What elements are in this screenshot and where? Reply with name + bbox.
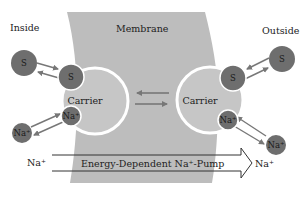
substrate-bound-left-label: S [68, 72, 74, 82]
sodium-inside: Na⁺ [12, 123, 32, 143]
substrate-bound-left: S [58, 64, 84, 90]
arrow-na-carrier-to-out [234, 126, 264, 144]
sodium-outside-label: Na⁺ [268, 140, 285, 150]
sodium-inside-label: Na⁺ [14, 128, 31, 138]
sodium-bound-right: Na⁺ [218, 110, 238, 130]
inside-label: Inside [10, 22, 40, 33]
substrate-inside-label: S [21, 58, 27, 68]
sodium-outside: Na⁺ [266, 135, 286, 155]
pump-to-label: Na⁺ [255, 158, 274, 169]
sodium-bound-left: Na⁺ [61, 106, 81, 126]
membrane-label: Membrane [116, 23, 169, 34]
transport-diagram: Carrier Carrier S S Na⁺ Na⁺ S S [0, 0, 308, 199]
arrow-s-carrier-to-out [245, 68, 268, 79]
arrow-s-in-to-carrier [37, 63, 58, 69]
arrow-s-out-to-carrier [247, 58, 269, 69]
arrow-s-carrier-to-in [38, 72, 59, 78]
substrate-inside: S [11, 50, 37, 76]
substrate-bound-right: S [220, 65, 246, 91]
arrow-na-out-to-carrier [237, 117, 266, 136]
substrate-bound-right-label: S [230, 73, 236, 83]
sodium-bound-right-label: Na⁺ [220, 115, 237, 125]
substrate-outside-label: S [279, 54, 285, 64]
carrier-left-label: Carrier [67, 95, 103, 106]
substrate-outside: S [269, 46, 295, 72]
sodium-bound-left-label: Na⁺ [63, 111, 80, 121]
outside-label: Outside [262, 25, 300, 36]
carrier-right-label: Carrier [182, 95, 218, 106]
pump-from-label: Na⁺ [27, 157, 46, 168]
pump-label: Energy-Dependent Na⁺-Pump [81, 158, 224, 169]
